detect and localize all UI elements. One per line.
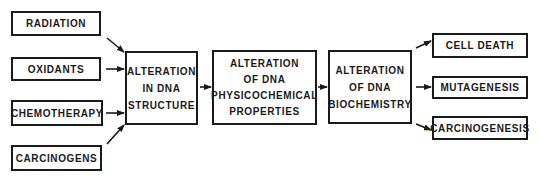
stage-box-dna-structure: ALTERATION IN DNA STRUCTURE: [125, 51, 198, 125]
stage-line: ALTERATION: [336, 62, 405, 79]
output-label: MUTAGENESIS: [440, 79, 519, 96]
stage-line: STRUCTURE: [128, 97, 195, 114]
output-box-carcinogenesis: CARCINOGENESIS: [432, 116, 528, 140]
input-box-oxidants: OXIDANTS: [11, 57, 101, 81]
stage-line: OF DNA: [349, 79, 391, 96]
input-box-carcinogens: CARCINOGENS: [11, 145, 102, 171]
input-box-chemotherapy: CHEMOTHERAPY: [11, 100, 103, 126]
arrow-carcinogens-to-structure: [107, 125, 124, 144]
stage-box-dna-physicochemical: ALTERATION OF DNA PHYSICOCHEMICAL PROPER…: [212, 50, 317, 125]
output-box-mutagenesis: MUTAGENESIS: [432, 76, 528, 99]
stage-line: ALTERATION: [230, 56, 299, 72]
input-label: CHEMOTHERAPY: [11, 105, 103, 122]
output-label: CARCINOGENESIS: [430, 120, 530, 137]
arrow-biochemistry-to-cell-death: [416, 41, 431, 48]
stage-line: BIOCHEMISTRY: [328, 96, 412, 113]
stage-line: IN DNA: [142, 80, 180, 97]
dna-damage-flow-diagram: RADIATION OXIDANTS CHEMOTHERAPY CARCINOG…: [0, 0, 539, 177]
stage-line: ALTERATION: [127, 63, 196, 80]
output-label: CELL DEATH: [446, 37, 514, 54]
input-label: RADIATION: [26, 15, 86, 32]
stage-line: PROPERTIES: [229, 104, 299, 120]
input-label: OXIDANTS: [28, 61, 84, 78]
stage-box-dna-biochemistry: ALTERATION OF DNA BIOCHEMISTRY: [328, 50, 412, 124]
arrow-radiation-to-structure: [107, 38, 124, 52]
stage-line: OF DNA: [244, 72, 286, 88]
output-box-cell-death: CELL DEATH: [432, 33, 528, 58]
input-box-radiation: RADIATION: [11, 11, 101, 36]
stage-line: PHYSICOCHEMICAL: [211, 88, 318, 104]
arrow-biochemistry-to-carcinogenesis: [416, 124, 431, 130]
input-label: CARCINOGENS: [16, 150, 98, 167]
